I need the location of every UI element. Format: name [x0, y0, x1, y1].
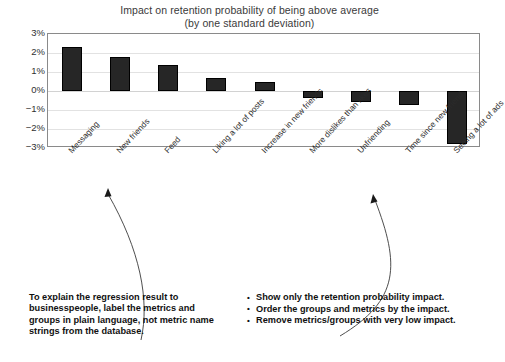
x-label-anchor: More dislikes than likes: [308, 149, 309, 150]
right-annotation-list: Show only the retention probability impa…: [247, 292, 493, 327]
gridline-2: [48, 53, 479, 54]
right-annotation-note: Show only the retention probability impa…: [247, 292, 493, 327]
gridline-neg1: [48, 110, 479, 111]
x-label-anchor: Increase in new friends: [260, 149, 261, 150]
chart-title-line1: Impact on retention probability of being…: [120, 4, 379, 16]
y-tick-label: 1%: [3, 66, 45, 76]
bar[interactable]: [399, 91, 419, 105]
y-tick-label: −3%: [3, 142, 45, 152]
x-label-anchor: Unfriending: [356, 149, 357, 150]
chart-title: Impact on retention probability of being…: [0, 4, 499, 30]
plot-area: [47, 33, 480, 147]
x-axis-labels: MessagingNew friendsFeedLiking a lot of …: [47, 149, 480, 259]
annotation-bullet: Order the groups and metrics by the impa…: [247, 304, 493, 316]
bar[interactable]: [110, 57, 130, 91]
x-label-anchor: Seeing a lot of ads: [452, 149, 453, 150]
x-label-anchor: Messaging: [67, 149, 68, 150]
x-label-anchor: Feed: [163, 149, 164, 150]
gridline-neg2: [48, 129, 479, 130]
y-axis: 3%2%1%0%−1%−2%−3%: [0, 33, 45, 147]
y-tick-label: −1%: [3, 104, 45, 114]
bar[interactable]: [255, 82, 275, 91]
y-tick-label: 0%: [3, 85, 45, 95]
x-label-anchor: Liking a lot of posts: [211, 149, 212, 150]
x-label-anchor: Time since new friend: [404, 149, 405, 150]
chart-subtitle: (by one standard deviation): [0, 17, 499, 30]
annotation-bullet: Show only the retention probability impa…: [247, 292, 493, 304]
y-tick-label: 2%: [3, 47, 45, 57]
x-label-anchor: New friends: [115, 149, 116, 150]
annotation-bullet: Remove metrics/groups with very low impa…: [247, 315, 493, 327]
bar[interactable]: [62, 47, 82, 91]
bar[interactable]: [206, 78, 226, 91]
left-annotation-note: To explain the regression result to busi…: [29, 292, 225, 338]
bar[interactable]: [158, 65, 178, 91]
y-tick-label: 3%: [3, 28, 45, 38]
y-tick-label: −2%: [3, 123, 45, 133]
